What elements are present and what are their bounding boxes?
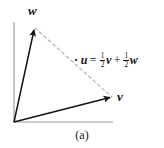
fraction-numerator: 1 (100, 52, 106, 60)
equation-coefficient-one-half-first: 1 2 (100, 52, 106, 69)
equation-equals-sign: = (87, 54, 99, 66)
equation-plus-sign: + (111, 54, 123, 66)
fraction-numerator: 1 (123, 52, 129, 60)
equation-variable-w: w (130, 54, 138, 66)
vector-diagram-canvas (0, 0, 164, 148)
midpoint-dot-marker: • (72, 56, 81, 65)
figure-caption: (a) (0, 128, 164, 143)
equation-coefficient-one-half-second: 1 2 (123, 52, 129, 69)
vector-label-w: w (28, 4, 37, 17)
fraction-denominator: 2 (123, 60, 129, 69)
fraction-denominator: 2 (100, 60, 106, 69)
equation-lhs-u: u (81, 54, 88, 66)
vector-v-arrow (14, 98, 110, 122)
vector-diagram-figure: w v • u = 1 2 v + 1 2 w (a) (0, 0, 164, 148)
vector-label-v: v (117, 90, 123, 103)
vector-w-arrow (14, 30, 34, 122)
midpoint-equation: • u = 1 2 v + 1 2 w (72, 52, 138, 69)
